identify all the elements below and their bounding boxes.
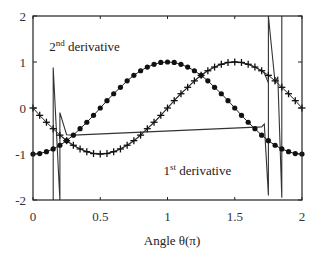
dot-marker — [165, 59, 170, 64]
dot-marker — [131, 73, 136, 78]
dot-marker — [266, 138, 271, 143]
dot-marker — [273, 143, 278, 148]
dot-marker — [279, 146, 284, 151]
plus-marker — [83, 148, 90, 155]
dot-marker — [145, 64, 150, 69]
annotations: 2nd derivative1st derivative — [49, 38, 231, 178]
dot-marker — [57, 143, 62, 148]
dot-marker — [246, 120, 251, 125]
dot-marker — [111, 91, 116, 96]
annotation-label: 2nd derivative — [49, 38, 120, 54]
plus-marker — [90, 150, 97, 157]
dot-marker — [77, 126, 82, 131]
x-tick-label: 2 — [299, 209, 306, 224]
y-tick-label: -1 — [15, 147, 26, 162]
chart: 00.511.52-2-1012 2nd derivative1st deriv… — [0, 0, 320, 259]
x-axis-label: Angle θ(π) — [144, 233, 200, 248]
dot-marker — [138, 68, 143, 73]
dot-marker — [98, 105, 103, 110]
dot-marker — [104, 98, 109, 103]
dot-marker — [158, 60, 163, 65]
plus-marker — [211, 64, 218, 71]
dot-marker — [118, 85, 123, 90]
plus-marker — [218, 61, 225, 68]
dot-marker — [37, 151, 42, 156]
x-tick-label: 1 — [164, 209, 171, 224]
plus-marker — [204, 67, 211, 74]
dot-marker — [125, 78, 130, 83]
y-tick-label: 1 — [20, 55, 27, 70]
dot-marker — [232, 105, 237, 110]
plus-marker — [117, 145, 124, 152]
x-tick-label: 1.5 — [227, 209, 243, 224]
dot-marker — [192, 68, 197, 73]
y-tick-label: 2 — [20, 9, 27, 24]
dot-marker — [212, 85, 217, 90]
dot-marker — [178, 62, 183, 67]
dot-marker — [91, 113, 96, 118]
dot-marker — [205, 78, 210, 83]
x-tick-label: 0 — [30, 209, 37, 224]
plus-marker — [251, 64, 258, 71]
dot-marker — [44, 149, 49, 154]
dot-marker — [84, 120, 89, 125]
dot-marker — [64, 138, 69, 143]
dot-marker — [225, 98, 230, 103]
y-tick-label: -2 — [15, 193, 26, 208]
dot-marker — [293, 151, 298, 156]
dot-marker — [286, 149, 291, 154]
dot-marker — [185, 64, 190, 69]
plus-marker — [97, 151, 104, 158]
dot-marker — [239, 113, 244, 118]
plus-marker — [245, 61, 252, 68]
y-tick-label: 0 — [20, 101, 27, 116]
plus-marker — [238, 59, 245, 66]
plus-marker — [103, 150, 110, 157]
dot-marker — [71, 133, 76, 138]
dot-marker — [151, 62, 156, 67]
plus-marker — [225, 59, 232, 66]
dot-marker — [252, 126, 257, 131]
x-tick-label: 0.5 — [92, 209, 108, 224]
dot-marker — [199, 73, 204, 78]
annotation-label: 1st derivative — [163, 162, 231, 178]
plus-marker — [70, 142, 77, 149]
dot-marker — [259, 133, 264, 138]
plus-marker — [231, 59, 238, 66]
dot-marker — [219, 91, 224, 96]
plus-marker — [124, 142, 131, 149]
plus-marker — [110, 148, 117, 155]
plus-marker — [77, 145, 84, 152]
dot-marker — [172, 60, 177, 65]
dot-marker — [51, 146, 56, 151]
